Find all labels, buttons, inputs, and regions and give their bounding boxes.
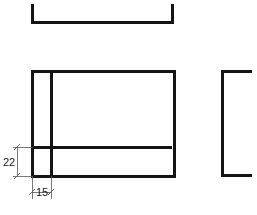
dimension-15: 15 bbox=[29, 176, 54, 199]
side-view-c-bracket bbox=[222, 71, 250, 175]
top-view-outline-path bbox=[32, 5, 172, 22]
drawing-svg-root: 22 15 bbox=[0, 0, 257, 215]
dimension-15-label: 15 bbox=[36, 186, 48, 198]
side-view-outline-path bbox=[222, 71, 250, 175]
top-view-channel-profile bbox=[32, 5, 172, 22]
dimension-22: 22 bbox=[3, 144, 33, 179]
front-view-outline-rect bbox=[32, 71, 174, 176]
engineering-drawing-canvas: 22 15 bbox=[0, 0, 257, 215]
front-view-rectangle bbox=[32, 71, 174, 176]
dimension-22-label: 22 bbox=[3, 156, 15, 168]
